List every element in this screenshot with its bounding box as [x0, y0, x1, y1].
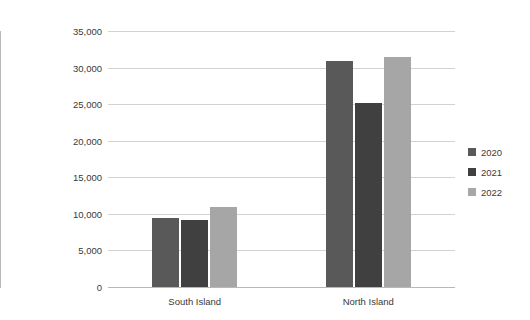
legend-swatch-icon-2022 [468, 188, 476, 196]
y-tick-label: 20,000 [44, 135, 102, 146]
y-axis-title: Number of seatbelt offences [24, 0, 40, 63]
bar-2021-south-island [181, 220, 208, 287]
y-tick-label: 15,000 [44, 172, 102, 183]
gridline-0 [108, 287, 455, 288]
y-tick-label: 10,000 [44, 208, 102, 219]
y-tick-label: 5,000 [44, 245, 102, 256]
legend-label-2020: 2020 [481, 147, 502, 158]
bar-chart: Number of seatbelt offences 05,00010,000… [0, 0, 530, 320]
bar-2022-south-island [210, 207, 237, 287]
legend-item-2022[interactable]: 2022 [468, 182, 526, 202]
x-tick-label-north-island: North Island [343, 296, 394, 307]
bar-2020-south-island [152, 218, 179, 287]
bar-2020-north-island [326, 61, 353, 287]
y-axis-tick-labels: 05,00010,00015,00020,00025,00030,00035,0… [42, 31, 102, 287]
x-tick-label-south-island: South Island [168, 296, 221, 307]
legend-label-2022: 2022 [481, 187, 502, 198]
plot-area [108, 31, 455, 287]
bar-2022-north-island [384, 57, 411, 287]
legend: 202020212022 [468, 142, 526, 202]
y-axis-line [0, 31, 1, 288]
y-tick-label: 25,000 [44, 99, 102, 110]
y-tick-label: 30,000 [44, 62, 102, 73]
bar-2021-north-island [355, 103, 382, 287]
legend-label-2021: 2021 [481, 167, 502, 178]
legend-item-2020[interactable]: 2020 [468, 142, 526, 162]
y-tick-label: 0 [44, 282, 102, 293]
legend-swatch-icon-2020 [468, 148, 476, 156]
legend-swatch-icon-2021 [468, 168, 476, 176]
y-tick-label: 35,000 [44, 26, 102, 37]
gridline-35000 [108, 31, 455, 32]
legend-item-2021[interactable]: 2021 [468, 162, 526, 182]
